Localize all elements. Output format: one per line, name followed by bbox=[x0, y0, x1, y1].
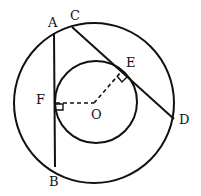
label-C: C bbox=[70, 8, 80, 23]
label-O: O bbox=[91, 107, 102, 122]
label-E: E bbox=[126, 55, 136, 70]
label-F: F bbox=[36, 92, 45, 107]
right-angle-F bbox=[56, 104, 63, 110]
chord-AB bbox=[54, 33, 55, 167]
concentric-circles-diagram: A C E F O D B bbox=[0, 0, 201, 196]
label-A: A bbox=[47, 15, 58, 30]
label-D: D bbox=[179, 112, 189, 127]
right-angle-E bbox=[117, 76, 128, 82]
chord-CD bbox=[72, 27, 174, 119]
label-B: B bbox=[49, 174, 59, 189]
